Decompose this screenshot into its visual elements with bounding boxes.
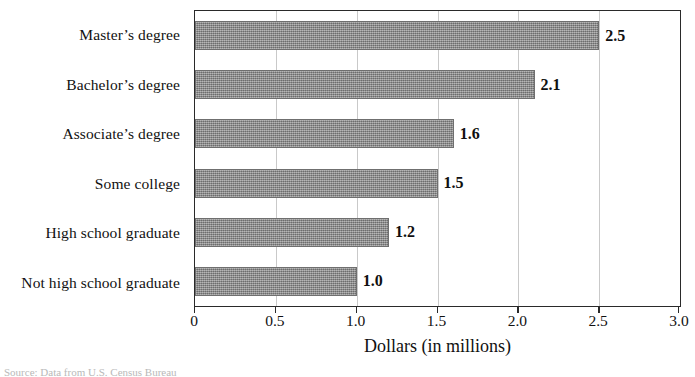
category-label: Bachelor’s degree: [66, 77, 180, 93]
bar-value-label: 2.5: [605, 27, 625, 45]
bar[interactable]: 1.6: [195, 119, 454, 148]
x-tick-label: 0.5: [265, 312, 284, 330]
bar-row: 2.1: [195, 60, 680, 109]
category-label: Some college: [95, 176, 180, 192]
category-label: Not high school graduate: [21, 275, 180, 291]
bar[interactable]: 1.0: [195, 267, 357, 296]
category-axis-labels: Master’s degree Bachelor’s degree Associ…: [0, 10, 188, 307]
bar[interactable]: 1.5: [195, 169, 438, 198]
bar-chart-figure: Master’s degree Bachelor’s degree Associ…: [0, 0, 695, 377]
category-label-row: Associate’s degree: [0, 109, 188, 159]
x-tick-label: 1.0: [346, 312, 365, 330]
bar[interactable]: 2.1: [195, 70, 535, 99]
source-note: Source: Data from U.S. Census Bureau: [4, 366, 177, 377]
category-label-row: Master’s degree: [0, 10, 188, 60]
plot-area: 2.5 2.1 1.6 1.5 1.2: [194, 10, 681, 307]
bar-row: 2.5: [195, 11, 680, 60]
category-label-row: Not high school graduate: [0, 258, 188, 308]
bar-value-label: 1.5: [444, 174, 464, 192]
x-tick-label: 2.0: [508, 312, 527, 330]
category-label: Master’s degree: [79, 27, 180, 43]
x-tick-label: 1.5: [427, 312, 446, 330]
bar[interactable]: 2.5: [195, 21, 599, 50]
bar[interactable]: 1.2: [195, 218, 389, 247]
category-label-row: Bachelor’s degree: [0, 60, 188, 110]
bar-row: 1.0: [195, 257, 680, 306]
category-label: Associate’s degree: [62, 126, 180, 142]
x-axis-tick-labels: 00.51.01.52.02.53.0: [194, 312, 681, 334]
bar-row: 1.6: [195, 109, 680, 158]
x-tick-label: 2.5: [588, 312, 607, 330]
bar-row: 1.5: [195, 159, 680, 208]
bar-value-label: 1.0: [363, 272, 383, 290]
category-label-row: High school graduate: [0, 208, 188, 258]
bar-value-label: 1.6: [460, 125, 480, 143]
category-label: High school graduate: [45, 225, 180, 241]
bar-row: 1.2: [195, 208, 680, 257]
x-axis-title: Dollars (in millions): [194, 336, 681, 357]
bar-value-label: 1.2: [395, 223, 415, 241]
bar-series: 2.5 2.1 1.6 1.5 1.2: [195, 11, 680, 306]
category-label-row: Some college: [0, 159, 188, 209]
x-tick-label: 0: [190, 312, 198, 330]
bar-value-label: 2.1: [541, 76, 561, 94]
x-tick-label: 3.0: [669, 312, 688, 330]
